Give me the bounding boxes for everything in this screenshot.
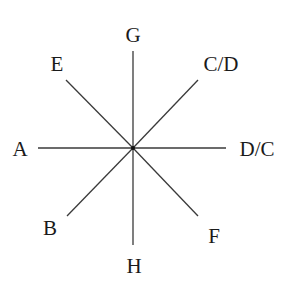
diagram-svg: AD/CGHEC/DBF <box>0 0 294 293</box>
star-diagram: AD/CGHEC/DBF <box>0 0 294 293</box>
labels-group: AD/CGHEC/DBF <box>12 23 274 278</box>
ray-label-cd: C/D <box>203 52 238 76</box>
ray-label-dc: D/C <box>239 137 274 161</box>
ray-line-e <box>66 80 133 148</box>
ray-line-f <box>133 148 198 216</box>
ray-label-a: A <box>12 137 28 161</box>
ray-label-b: B <box>43 216 57 240</box>
ray-label-f: F <box>208 224 220 248</box>
ray-line-b <box>67 148 133 216</box>
ray-label-g: G <box>125 23 140 47</box>
ray-label-h: H <box>126 254 141 278</box>
ray-line-cd <box>133 80 198 148</box>
ray-label-e: E <box>51 52 64 76</box>
center-point <box>131 146 135 150</box>
